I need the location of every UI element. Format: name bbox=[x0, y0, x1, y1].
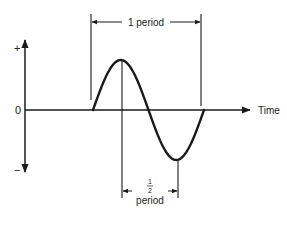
zero-label: 0 bbox=[15, 104, 21, 116]
half-numerator: 1 bbox=[148, 178, 152, 185]
plus-label: + bbox=[14, 42, 20, 54]
full-period-label: 1 period bbox=[128, 17, 164, 28]
sine-period-diagram: + 0 − Time 1 period 1 2 period bbox=[0, 0, 287, 229]
half-period-label: period bbox=[136, 195, 164, 206]
time-label: Time bbox=[258, 105, 280, 116]
minus-label: − bbox=[14, 164, 20, 176]
half-denominator: 2 bbox=[148, 187, 152, 194]
